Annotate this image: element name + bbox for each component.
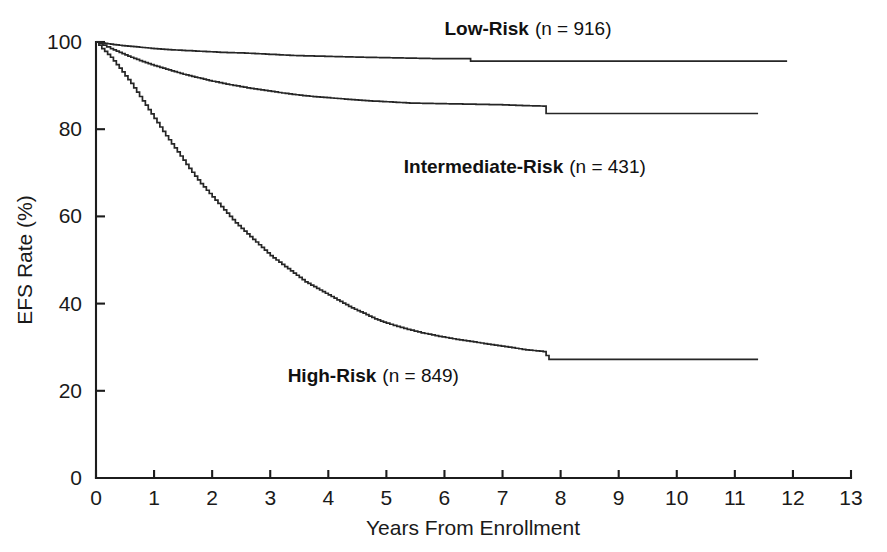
x-tick-label-2: 2 — [206, 486, 218, 509]
y-tick-label-20: 20 — [59, 379, 82, 402]
x-tick-label-8: 8 — [555, 486, 567, 509]
x-tick-label-4: 4 — [322, 486, 334, 509]
x-tick-label-13: 13 — [839, 486, 862, 509]
y-tick-label-0: 0 — [70, 466, 82, 489]
chart-figure: 012345678910111213 020406080100 Years Fr… — [0, 0, 887, 552]
series-label-name: Intermediate-Risk — [404, 156, 564, 177]
y-tick-label-60: 60 — [59, 204, 82, 227]
x-tick-label-6: 6 — [439, 486, 451, 509]
x-tick-label-9: 9 — [613, 486, 625, 509]
series-label-intermediate-risk: Intermediate-Risk(n = 431) — [404, 156, 646, 177]
series-label-name: High-Risk — [288, 365, 377, 386]
svg-text:Intermediate-Risk(n = 431): Intermediate-Risk(n = 431) — [404, 156, 646, 177]
series-label-count: (n = 916) — [535, 18, 612, 39]
svg-text:High-Risk(n = 849): High-Risk(n = 849) — [288, 365, 459, 386]
x-tick-label-11: 11 — [724, 486, 746, 509]
x-tick-label-3: 3 — [264, 486, 276, 509]
km-survival-chart: 012345678910111213 020406080100 Years Fr… — [0, 0, 887, 552]
svg-text:Low-Risk(n = 916): Low-Risk(n = 916) — [444, 18, 611, 39]
x-tick-label-7: 7 — [497, 486, 509, 509]
series-label-count: (n = 431) — [569, 156, 646, 177]
y-axis-title: EFS Rate (%) — [13, 195, 36, 325]
x-axis-title: Years From Enrollment — [366, 516, 580, 539]
series-label-high-risk: High-Risk(n = 849) — [288, 365, 459, 386]
y-tick-label-40: 40 — [59, 292, 82, 315]
series-label-low-risk: Low-Risk(n = 916) — [444, 18, 611, 39]
series-label-name: Low-Risk — [444, 18, 529, 39]
series-label-count: (n = 849) — [382, 365, 459, 386]
y-tick-label-100: 100 — [47, 30, 82, 53]
x-tick-label-10: 10 — [665, 486, 688, 509]
x-tick-label-5: 5 — [381, 486, 393, 509]
x-tick-label-12: 12 — [781, 486, 804, 509]
x-tick-label-0: 0 — [90, 486, 102, 509]
x-tick-label-1: 1 — [148, 486, 160, 509]
y-tick-label-80: 80 — [59, 117, 82, 140]
